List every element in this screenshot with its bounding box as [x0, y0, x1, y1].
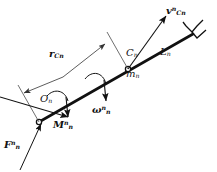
label-angular-velocity: ωnn [92, 105, 111, 116]
force-vector-arrow [20, 124, 41, 170]
end-joint-bracket-icon [183, 20, 206, 38]
position-vector-dimension [18, 32, 128, 122]
label-mass: mn [126, 69, 139, 80]
angular-velocity-arc [85, 73, 106, 101]
diagram-canvas: vnCn Ln Cn mn rCn On ωnn Mnn Fnn [0, 0, 217, 172]
diagram-vector-graphics [0, 0, 217, 172]
label-moment: Mnn [53, 120, 73, 131]
label-position-vector: rCn [49, 49, 64, 60]
label-centroid: Cn [126, 48, 138, 59]
position-vector-arrow [24, 44, 105, 93]
label-link-length: Ln [160, 47, 171, 58]
label-force: Fnn [4, 140, 20, 151]
label-velocity: vnCn [166, 6, 186, 17]
label-origin: On [40, 94, 52, 105]
